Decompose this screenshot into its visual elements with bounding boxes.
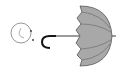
smiley-face-icon bbox=[11, 23, 34, 43]
illustration: Clip-art: a smiling face outline next to… bbox=[0, 0, 123, 72]
umbrella-icon bbox=[42, 6, 116, 66]
